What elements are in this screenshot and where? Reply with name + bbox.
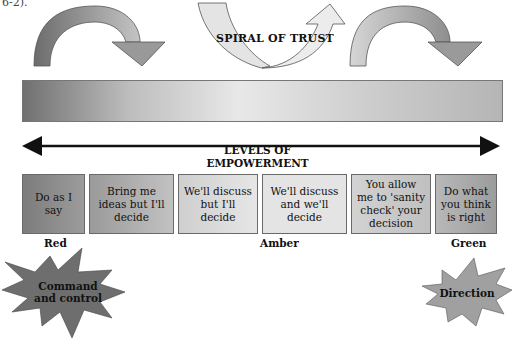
- levels-title-line1: LEVELS OF: [180, 144, 335, 157]
- direction-label: Direction: [432, 287, 502, 299]
- level-box-label: Bring me ideas but I'll decide: [94, 185, 169, 224]
- levels-title-line2: EMPOWERMENT: [180, 157, 335, 170]
- zone-label-red: Red: [44, 237, 67, 249]
- left-curved-arrow-icon: [34, 6, 165, 66]
- zone-label-amber: Amber: [260, 237, 299, 249]
- level-box-label: You allow me to 'sanity check' your deci…: [356, 178, 426, 230]
- command-line1: Command: [28, 280, 108, 292]
- level-box-label: We'll discuss but I'll decide: [183, 185, 253, 224]
- command-and-control-label: Command and control: [28, 280, 108, 304]
- level-box-1: Do as I say: [22, 174, 85, 234]
- level-box-label: Do as I say: [27, 191, 80, 217]
- level-box-label: We'll discuss and we'll decide: [267, 185, 342, 224]
- level-box-6: Do what you think is right: [435, 174, 497, 234]
- level-box-4: We'll discuss and we'll decide: [262, 174, 347, 234]
- command-line2: and control: [28, 292, 108, 304]
- right-curved-arrow-icon: [350, 6, 482, 66]
- zone-label-green: Green: [451, 237, 487, 249]
- spiral-of-trust-title: SPIRAL OF TRUST: [200, 32, 350, 45]
- levels-of-empowerment-title: LEVELS OF EMPOWERMENT: [180, 144, 335, 170]
- level-box-2: Bring me ideas but I'll decide: [89, 174, 174, 234]
- trust-gradient-bar: [22, 80, 503, 122]
- level-box-label: Do what you think is right: [440, 185, 492, 224]
- level-box-3: We'll discuss but I'll decide: [178, 174, 258, 234]
- level-box-5: You allow me to 'sanity check' your deci…: [351, 174, 431, 234]
